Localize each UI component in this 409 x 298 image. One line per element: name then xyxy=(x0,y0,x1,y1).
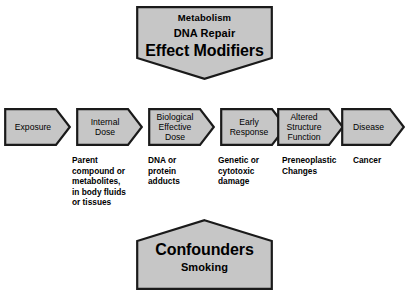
caption-altered-structure-function: Preneoplastic Changes xyxy=(282,155,348,176)
confounders-text: Confounders Smoking xyxy=(136,241,273,274)
stage-label-biological-effective-dose: Biological Effective Dose xyxy=(148,108,215,146)
caption-disease: Cancer xyxy=(353,155,403,166)
stage-label-disease: Disease xyxy=(341,108,405,146)
stage-arrow-altered-structure-function[interactable]: Altered Structure Function xyxy=(277,108,344,146)
stage-arrow-biological-effective-dose[interactable]: Biological Effective Dose xyxy=(148,108,215,146)
caption-early-response: Genetic or cytotoxic damage xyxy=(218,155,280,187)
confounders-line-smoking: Smoking xyxy=(136,261,273,274)
stage-arrow-exposure[interactable]: Exposure xyxy=(4,108,71,146)
caption-internal-dose: Parent compound or metabolites, in body … xyxy=(72,155,142,208)
stage-label-exposure: Exposure xyxy=(4,108,71,146)
stage-label-altered-structure-function: Altered Structure Function xyxy=(277,108,344,146)
stage-label-internal-dose: Internal Dose xyxy=(76,108,143,146)
stage-arrow-internal-dose[interactable]: Internal Dose xyxy=(76,108,143,146)
diagram-canvas: Metabolism DNA Repair Effect Modifiers E… xyxy=(0,0,409,298)
caption-biological-effective-dose: DNA or protein adducts xyxy=(148,155,210,187)
confounders-block: Confounders Smoking xyxy=(136,219,273,290)
confounders-line-title: Confounders xyxy=(136,241,273,259)
stage-arrow-disease[interactable]: Disease xyxy=(341,108,405,146)
